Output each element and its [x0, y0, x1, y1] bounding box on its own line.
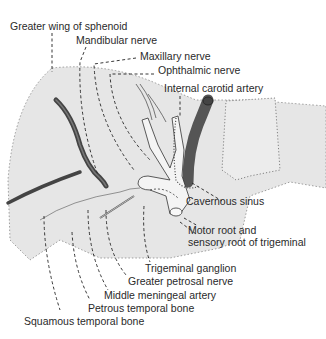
internal-carotid-opening	[203, 97, 213, 105]
cavernous-sinus-region	[222, 98, 280, 180]
label-internal-carotid-artery: Internal carotid artery	[164, 82, 263, 94]
label-mandibular-nerve: Mandibular nerve	[76, 34, 157, 46]
label-squamous-temporal-bone: Squamous temporal bone	[24, 315, 144, 327]
label-middle-meningeal-artery: Middle meningeal artery	[104, 289, 216, 301]
label-greater-petrosal-nerve: Greater petrosal nerve	[128, 275, 233, 287]
label-greater-wing-of-sphenoid: Greater wing of sphenoid	[10, 20, 127, 32]
label-maxillary-nerve: Maxillary nerve	[140, 50, 211, 62]
label-petrous-temporal-bone: Petrous temporal bone	[88, 302, 194, 314]
label-trigeminal-ganglion: Trigeminal ganglion	[145, 262, 236, 274]
label-cavernous-sinus: Cavernous sinus	[186, 195, 264, 207]
label-motor-root-line1: Motor root and	[188, 224, 256, 236]
label-ophthalmic-nerve: Ophthalmic nerve	[158, 64, 240, 76]
label-motor-root-line2: sensory root of trigeminal	[188, 236, 306, 248]
